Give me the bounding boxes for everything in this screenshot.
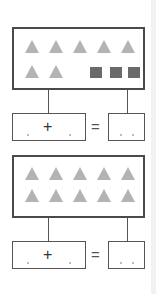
square-icon xyxy=(110,67,122,78)
addend-1-blank[interactable] xyxy=(27,134,29,136)
sum-digit-blank[interactable] xyxy=(120,134,122,136)
triangle-icon xyxy=(25,189,39,202)
sum-box-2[interactable] xyxy=(108,241,145,269)
triangle-icon xyxy=(121,167,135,180)
plus-sign: + xyxy=(43,247,52,263)
triangle-icon xyxy=(49,167,63,180)
triangle-icon xyxy=(121,40,135,53)
triangle-icon xyxy=(25,40,39,53)
triangle-icon xyxy=(49,189,63,202)
triangle-icon xyxy=(25,65,39,78)
sum-digit-blank[interactable] xyxy=(132,134,134,136)
triangle-icon xyxy=(49,40,63,53)
triangle-icon xyxy=(25,167,39,180)
square-icon xyxy=(90,67,102,78)
sum-digit-blank[interactable] xyxy=(132,262,134,264)
connector-line xyxy=(48,90,49,113)
triangle-icon xyxy=(73,40,87,53)
connector-line xyxy=(127,218,128,241)
addend-1-blank[interactable] xyxy=(27,262,29,264)
equals-sign: = xyxy=(91,247,100,262)
picture-box-2 xyxy=(12,155,145,218)
sum-box-1[interactable] xyxy=(108,113,145,141)
picture-box-1 xyxy=(12,27,145,90)
page-edge xyxy=(151,0,156,294)
connector-line xyxy=(48,218,49,241)
triangle-icon xyxy=(49,65,63,78)
addition-box-1[interactable]: + xyxy=(12,113,86,141)
triangle-icon xyxy=(97,189,111,202)
addition-box-2[interactable]: + xyxy=(12,241,86,269)
triangle-icon xyxy=(97,40,111,53)
connector-line xyxy=(127,90,128,113)
plus-sign: + xyxy=(43,119,52,135)
triangle-icon xyxy=(73,189,87,202)
sum-digit-blank[interactable] xyxy=(120,262,122,264)
square-icon xyxy=(128,67,140,78)
equals-sign: = xyxy=(91,119,100,134)
triangle-icon xyxy=(97,167,111,180)
triangle-icon xyxy=(73,167,87,180)
triangle-icon xyxy=(121,189,135,202)
addend-2-blank[interactable] xyxy=(69,134,71,136)
addend-2-blank[interactable] xyxy=(69,262,71,264)
